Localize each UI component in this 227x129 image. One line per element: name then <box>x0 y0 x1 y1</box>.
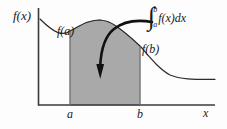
integral-limits: ba <box>153 6 157 30</box>
curve-label-f-of-b: f(b) <box>142 43 159 55</box>
integral-lower-limit: a <box>153 21 157 29</box>
integral-figure: f(x) f(a) f(b) a b x ∫baf(x)dx <box>0 0 227 129</box>
integral-upper-limit: b <box>153 6 157 14</box>
integral-expression: ∫baf(x)dx <box>148 6 186 30</box>
x-tick-label-a: a <box>67 108 73 120</box>
x-tick-label-b: b <box>137 108 143 120</box>
y-axis-label: f(x) <box>13 9 31 22</box>
curve-label-f-of-a: f(a) <box>57 25 74 37</box>
x-axis-label: x <box>203 107 208 119</box>
integral-integrand: f(x)dx <box>158 12 186 24</box>
figure-canvas <box>0 0 227 129</box>
shaded-area-region <box>70 20 140 105</box>
